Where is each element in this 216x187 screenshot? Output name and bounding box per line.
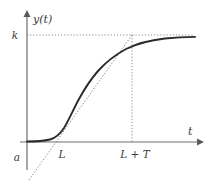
- figure-container: y(t) t k a L L + T: [0, 0, 216, 187]
- s-curve-plot: y(t) t k a L L + T: [0, 0, 216, 187]
- l-tick-label: L: [58, 148, 66, 160]
- t-axis-arrowhead: [197, 138, 204, 145]
- y-axis-arrowhead: [24, 10, 31, 17]
- l-plus-t-tick-label: L + T: [119, 148, 150, 160]
- t-axis-label: t: [188, 125, 193, 138]
- y-axis-label: y(t): [32, 13, 52, 26]
- response-curve: [27, 37, 195, 142]
- inflection-tangent-line: [29, 35, 132, 180]
- a-offset-label: a: [14, 151, 20, 163]
- k-level-label: k: [12, 29, 18, 41]
